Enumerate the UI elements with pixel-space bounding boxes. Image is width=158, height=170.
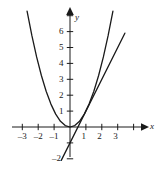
y-tick-label: –2 [52,154,61,163]
y-tick-label: 1 [59,107,64,116]
y-tick-label: 2 [59,91,64,100]
x-tick-label: 2 [97,132,102,141]
x-axis-arrow-icon [141,123,149,131]
y-tick-label: 4 [59,59,64,68]
graph-figure: –3–2–1123–2123456 x y [0,0,158,170]
y-tick-label: 3 [59,75,64,84]
x-tick-label: 1 [81,132,86,141]
y-axis-label: y [75,13,79,22]
y-tick-label: 5 [59,43,64,52]
tangent-line-curve [61,33,125,160]
x-tick-label: –1 [50,132,59,141]
x-tick-label: 3 [113,132,118,141]
x-tick-label: –3 [18,132,27,141]
x-tick-label: –2 [34,132,43,141]
y-axis-arrow-icon [66,7,74,15]
y-tick-label: 6 [59,27,64,36]
plot-canvas [0,0,158,170]
x-axis-label: x [150,122,154,131]
